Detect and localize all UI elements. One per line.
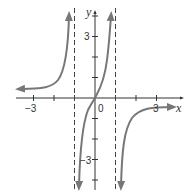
function-graph: y x 0 −3 3 3 −3 bbox=[0, 0, 193, 195]
y-tick-label-3: 3 bbox=[84, 31, 90, 42]
curve-left-branch bbox=[20, 16, 69, 89]
x-tick-label-neg3: −3 bbox=[25, 103, 37, 114]
y-axis-label: y bbox=[85, 5, 92, 19]
x-axis-label: x bbox=[175, 101, 182, 115]
y-tick-label-neg3: −3 bbox=[80, 155, 92, 166]
origin-label: 0 bbox=[98, 103, 104, 114]
curve-right-branch bbox=[121, 107, 172, 186]
x-tick-label-3: 3 bbox=[153, 103, 159, 114]
